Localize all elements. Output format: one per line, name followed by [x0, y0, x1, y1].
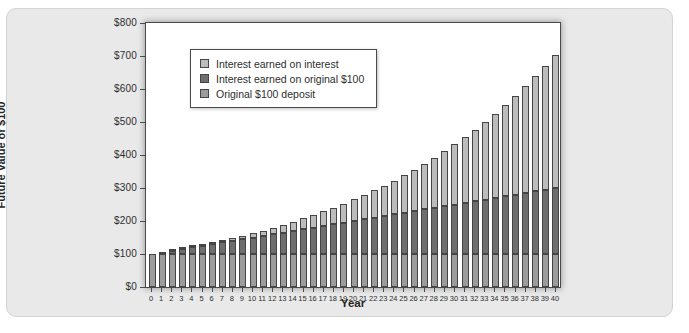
bar-segment [219, 242, 226, 254]
bar-segment [441, 151, 448, 206]
bar-segment [522, 254, 529, 287]
bar-segment [149, 254, 156, 287]
bar-segment [219, 254, 226, 287]
bar-segment [482, 200, 489, 254]
y-axis-tick [140, 23, 145, 24]
bar-segment [290, 254, 297, 287]
y-tick-label: $100 [95, 248, 137, 259]
bar-segment [351, 221, 358, 254]
x-axis-tick [333, 288, 334, 292]
bar-segment [179, 247, 186, 249]
bar-segment [532, 191, 539, 254]
bar-segment [199, 246, 206, 254]
bar-segment [472, 130, 479, 201]
bar-segment [492, 198, 499, 254]
bar-segment [340, 223, 347, 254]
x-axis-tick [282, 288, 283, 292]
bar-segment [371, 218, 378, 254]
x-axis-tick [151, 288, 152, 292]
x-axis-tick [555, 288, 556, 292]
bar-segment [512, 254, 519, 287]
bar-segment [270, 234, 277, 254]
bar-segment [381, 186, 388, 216]
bar-segment [250, 233, 257, 237]
x-axis-tick [383, 288, 384, 292]
bar-segment [209, 244, 216, 254]
legend-item: Interest earned on original $100 [200, 71, 364, 86]
y-tick-label: $300 [95, 182, 137, 193]
bar-segment [472, 254, 479, 287]
bar-segment [280, 233, 287, 254]
bar-segment [512, 96, 519, 195]
bar-segment [169, 249, 176, 251]
x-axis-tick [373, 288, 374, 292]
bar-segment [552, 55, 559, 188]
bar-segment [371, 254, 378, 287]
x-axis-tick [484, 288, 485, 292]
x-axis-tick [313, 288, 314, 292]
bar-segment [300, 254, 307, 287]
legend-label: Interest earned on interest [216, 58, 339, 70]
bar-segment [502, 105, 509, 196]
chart-card: Future Value of $100 Interest earned on … [6, 8, 673, 317]
x-axis-tick [232, 288, 233, 292]
y-axis-tick [140, 287, 145, 288]
bar-segment [552, 254, 559, 287]
x-axis-tick [181, 288, 182, 292]
bar-segment [542, 254, 549, 287]
x-axis-tick [464, 288, 465, 292]
bar-segment [320, 226, 327, 254]
legend-swatch-interest-on-original-icon [200, 74, 209, 83]
legend-item: Interest earned on interest [200, 56, 364, 71]
bar-segment [431, 254, 438, 287]
x-axis-tick [292, 288, 293, 292]
bar-segment [391, 214, 398, 254]
x-axis-tick [303, 288, 304, 292]
bar-segment [361, 219, 368, 254]
bar-segment [431, 158, 438, 208]
bar-segment [290, 231, 297, 254]
bar-segment [542, 190, 549, 254]
bar-segment [482, 122, 489, 200]
y-tick-label: $200 [95, 215, 137, 226]
bar-segment [310, 228, 317, 254]
bar-segment [472, 201, 479, 254]
y-axis-tick [140, 155, 145, 156]
x-axis-tick [504, 288, 505, 292]
bar-segment [270, 228, 277, 234]
bar-segment [250, 238, 257, 255]
y-tick-label: $500 [95, 116, 137, 127]
x-axis-tick [424, 288, 425, 292]
bar-segment [371, 190, 378, 217]
bar-segment [310, 254, 317, 287]
bar-segment [159, 252, 166, 254]
x-axis-tick [414, 288, 415, 292]
bar-segment [270, 254, 277, 287]
bar-segment [451, 254, 458, 287]
bar-segment [250, 254, 257, 287]
bar-segment [462, 254, 469, 287]
y-axis-tick [140, 89, 145, 90]
x-axis-tick [262, 288, 263, 292]
x-axis-tick [545, 288, 546, 292]
legend-swatch-interest-on-interest-icon [200, 59, 209, 68]
bar-segment [179, 254, 186, 287]
x-axis-tick [252, 288, 253, 292]
bar-segment [209, 254, 216, 287]
y-axis-tick [140, 188, 145, 189]
bar-segment [199, 244, 206, 246]
bar-segment [462, 203, 469, 254]
bar-segment [189, 254, 196, 287]
bar-segment [290, 222, 297, 231]
bar-segment [189, 245, 196, 247]
bar-segment [330, 224, 337, 254]
y-tick-label: $800 [95, 17, 137, 28]
y-axis-tick [140, 221, 145, 222]
x-axis-tick [393, 288, 394, 292]
bar-segment [381, 216, 388, 254]
x-axis-tick [535, 288, 536, 292]
bar-segment [260, 236, 267, 254]
x-axis-tick [242, 288, 243, 292]
bar-segment [542, 66, 549, 190]
bar-segment [361, 195, 368, 219]
